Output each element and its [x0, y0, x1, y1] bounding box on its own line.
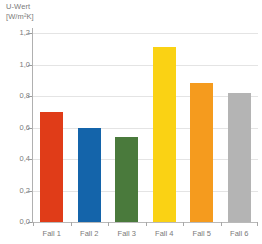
- y-tick-mark: [28, 96, 32, 97]
- chart-axis-title: U-Wert [W/m²K]: [6, 2, 34, 21]
- x-tick-mark: [183, 222, 184, 226]
- x-tick-mark: [257, 222, 258, 226]
- x-tick-mark: [221, 222, 222, 226]
- bar: [228, 93, 251, 222]
- y-axis-ticks: 0,00,20,40,60,81,01,2: [0, 28, 30, 223]
- x-tick-label: Fall 6: [217, 229, 261, 239]
- y-tick-label: 1,2: [6, 29, 30, 37]
- bar: [78, 128, 101, 223]
- y-tick-label: 0,0: [6, 218, 30, 226]
- y-tick-label: 0,6: [6, 124, 30, 132]
- y-tick-label: 0,4: [6, 155, 30, 163]
- y-tick-mark: [28, 191, 32, 192]
- y-tick-mark: [28, 128, 32, 129]
- bar-chart: U-Wert [W/m²K] 0,00,20,40,60,81,01,2 Fal…: [0, 0, 262, 244]
- x-axis-labels: Fall 1Fall 2Fall 3Fall 4Fall 5Fall 6: [33, 229, 258, 243]
- bar: [190, 83, 213, 222]
- x-axis-ticks: [33, 222, 258, 227]
- y-tick-mark: [28, 222, 32, 223]
- y-tick-label: 1,0: [6, 61, 30, 69]
- y-tick-label: 0,8: [6, 92, 30, 100]
- x-tick-mark: [71, 222, 72, 226]
- bar: [40, 112, 63, 222]
- x-tick-mark: [108, 222, 109, 226]
- bar: [115, 137, 138, 222]
- bar: [153, 47, 176, 222]
- y-tick-mark: [28, 33, 32, 34]
- x-tick-mark: [33, 222, 34, 226]
- chart-title: U-Wert: [6, 2, 34, 12]
- y-tick-mark: [28, 65, 32, 66]
- chart-unit-label: [W/m²K]: [6, 12, 34, 22]
- y-tick-label: 0,2: [6, 187, 30, 195]
- bar-series: [33, 28, 258, 222]
- x-tick-mark: [146, 222, 147, 226]
- y-tick-mark: [28, 159, 32, 160]
